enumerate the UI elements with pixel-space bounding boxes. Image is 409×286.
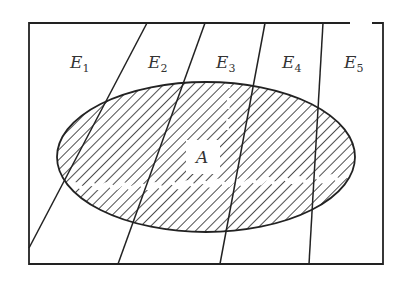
partition-diagram: E1 E2 E3 E4 E5 A xyxy=(0,0,409,286)
label-e1: E1 xyxy=(69,52,89,75)
label-e3: E3 xyxy=(215,52,235,75)
label-a: A xyxy=(194,147,208,167)
label-e2: E2 xyxy=(147,52,167,75)
label-e4: E4 xyxy=(281,52,301,75)
label-e5: E5 xyxy=(343,52,363,75)
